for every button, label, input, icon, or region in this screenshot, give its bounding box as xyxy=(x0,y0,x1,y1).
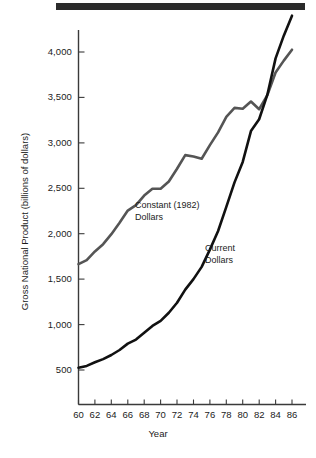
x-tick-marks xyxy=(79,400,293,405)
y-tick-label: 500 xyxy=(10,364,72,375)
x-axis-title: Year xyxy=(0,428,316,439)
series-label-current-dollars: Current Dollars xyxy=(205,243,235,266)
chart-figure: 5001,0001,5002,0002,5003,0003,5004,000 6… xyxy=(0,0,316,458)
y-tick-label: 4,000 xyxy=(10,46,72,57)
series-line-constant-dollars xyxy=(79,50,293,264)
series-line-current-dollars xyxy=(79,16,293,368)
series-label-constant-dollars: Constant (1982) Dollars xyxy=(135,200,200,223)
y-axis-title: Gross National Product (billions of doll… xyxy=(19,102,30,342)
y-tick-marks xyxy=(79,52,85,370)
x-tick-label: 86 xyxy=(278,409,306,420)
